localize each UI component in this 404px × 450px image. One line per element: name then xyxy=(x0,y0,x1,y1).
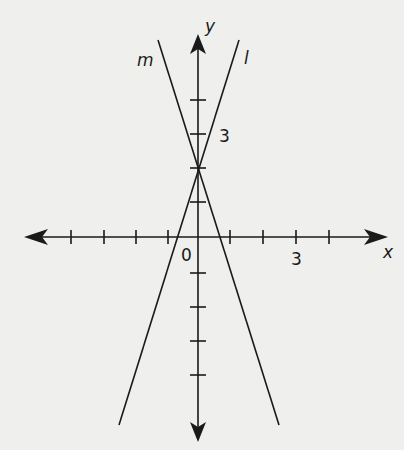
line-l-label: l xyxy=(244,48,249,68)
line-l xyxy=(119,40,239,425)
x-axis-label: x xyxy=(382,242,394,262)
x-tick-label-3: 3 xyxy=(291,249,302,269)
line-m xyxy=(158,40,279,425)
axis-arrowheads xyxy=(24,34,388,442)
graph-canvas: y x 0 3 3 m l xyxy=(0,0,404,450)
coordinate-plane-diagram: y x 0 3 3 m l xyxy=(0,0,404,450)
origin-label: 0 xyxy=(181,245,192,265)
line-m-label: m xyxy=(137,50,154,70)
y-axis-label: y xyxy=(204,16,216,36)
y-tick-label-3: 3 xyxy=(219,126,230,146)
